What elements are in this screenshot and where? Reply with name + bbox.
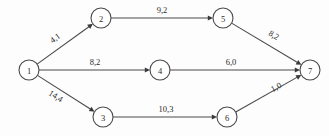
node-label-3: 3 bbox=[101, 113, 105, 123]
edge-label-3-6: 10,3 bbox=[159, 104, 174, 114]
arrowhead-icon bbox=[212, 114, 217, 119]
node-label-2: 2 bbox=[99, 14, 103, 24]
edge-labels-layer: 4,18,214,49,26,010,38,21,0 bbox=[47, 5, 283, 114]
edge-label-1-2: 4,1 bbox=[48, 31, 62, 45]
node-3[interactable]: 3 bbox=[93, 107, 113, 127]
edge-label-1-4: 8,2 bbox=[90, 57, 101, 67]
edge-1-to-4 bbox=[39, 67, 150, 72]
network-diagram: 1234567 4,18,214,49,26,010,38,21,0 bbox=[0, 0, 329, 136]
node-label-7: 7 bbox=[308, 66, 312, 76]
node-5[interactable]: 5 bbox=[213, 8, 233, 28]
edge-label-2-5: 9,2 bbox=[157, 5, 168, 15]
edge-1-to-3 bbox=[37, 75, 94, 111]
node-2[interactable]: 2 bbox=[91, 8, 111, 28]
edge-label-4-7: 6,0 bbox=[226, 57, 237, 67]
node-1[interactable]: 1 bbox=[19, 60, 39, 80]
edge-label-1-3: 14,4 bbox=[47, 88, 66, 105]
edge-6-to-7 bbox=[236, 75, 302, 112]
node-4[interactable]: 4 bbox=[150, 60, 170, 80]
node-6[interactable]: 6 bbox=[217, 107, 237, 127]
arrowhead-icon bbox=[87, 24, 93, 29]
network-graph-canvas: 1234567 4,18,214,49,26,010,38,21,0 bbox=[0, 0, 329, 136]
edge-2-to-5 bbox=[111, 15, 213, 20]
edge-3-to-6 bbox=[113, 114, 217, 119]
node-label-6: 6 bbox=[225, 113, 229, 123]
arrowhead-icon bbox=[145, 67, 150, 72]
node-label-5: 5 bbox=[221, 14, 225, 24]
edge-5-to-7 bbox=[232, 23, 302, 65]
node-7[interactable]: 7 bbox=[300, 60, 320, 80]
arrowhead-icon bbox=[295, 67, 300, 72]
edge-1-to-2 bbox=[37, 24, 93, 64]
edge-label-5-7: 8,2 bbox=[267, 28, 281, 42]
node-label-1: 1 bbox=[27, 66, 31, 76]
edge-4-to-7 bbox=[170, 67, 300, 72]
arrowhead-icon bbox=[208, 15, 213, 20]
